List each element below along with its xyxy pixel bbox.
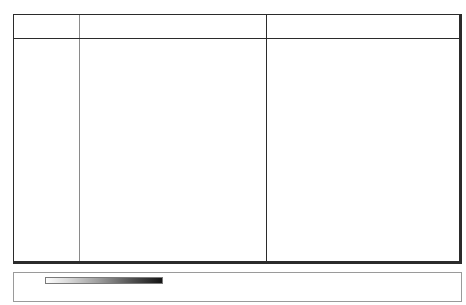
header-period: [266, 15, 459, 39]
legend-gradient-bar: [45, 277, 163, 284]
header-period-title: [266, 16, 459, 27]
legend: [13, 272, 462, 302]
table-body: [14, 39, 459, 261]
header-field-of-use: [14, 15, 79, 39]
gantt-chart-root: [0, 0, 466, 305]
table-header: [14, 15, 459, 39]
table-grid: [14, 15, 459, 261]
header-task: [79, 15, 266, 39]
schedule-table: [13, 14, 462, 264]
